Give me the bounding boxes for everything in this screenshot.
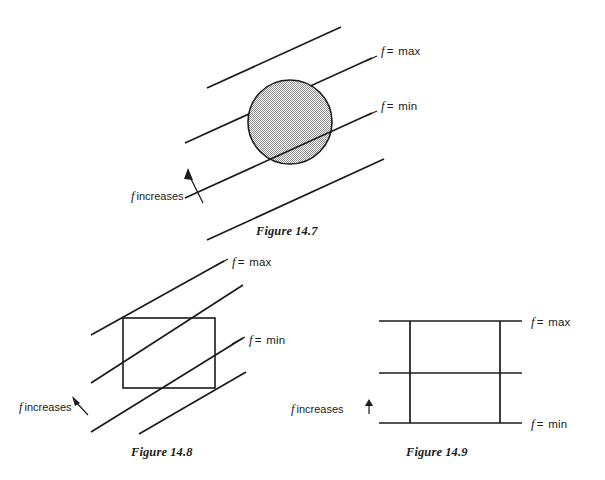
contour-line-4 bbox=[139, 372, 246, 434]
equals-sign: = bbox=[536, 316, 545, 328]
contour-line-1-fmax bbox=[91, 261, 224, 335]
min-text: min bbox=[398, 100, 417, 112]
equals-sign: = bbox=[386, 45, 395, 57]
figure-14-8-fmax-label: f= max bbox=[232, 254, 271, 270]
contour-line-2 bbox=[91, 285, 243, 383]
f-increases-arrow-head bbox=[184, 168, 193, 180]
figure-14-9-fmax-label: f= max bbox=[531, 314, 570, 330]
max-text: max bbox=[398, 45, 420, 57]
increases-text: increases bbox=[296, 403, 343, 415]
contour-line-1 bbox=[207, 27, 341, 88]
figure-14-7-graphic bbox=[184, 27, 384, 240]
figure-14-9-graphic bbox=[365, 321, 522, 423]
equals-sign: = bbox=[536, 418, 545, 430]
feasible-region-disk bbox=[248, 80, 332, 164]
equals-sign: = bbox=[386, 100, 395, 112]
figure-14-8-caption: Figure 14.8 bbox=[131, 445, 193, 460]
fmax-leader bbox=[366, 56, 377, 61]
fmax-leader bbox=[215, 259, 228, 266]
figure-14-7-fmax-label: f= max bbox=[381, 43, 420, 59]
equals-sign: = bbox=[237, 256, 246, 268]
fmin-leader bbox=[366, 111, 377, 116]
figure-page: f= max f= min fincreases Figure 14.7 f= … bbox=[0, 0, 605, 480]
min-text: min bbox=[548, 418, 567, 430]
figure-14-7-caption: Figure 14.7 bbox=[256, 224, 318, 239]
figure-14-7-fmin-label: f= min bbox=[381, 98, 417, 114]
max-text: max bbox=[249, 256, 271, 268]
f-increases-arrow-head bbox=[365, 399, 373, 406]
figure-14-7-f-increases-label: fincreases bbox=[131, 189, 184, 204]
figure-14-9-f-increases-label: fincreases bbox=[291, 402, 344, 417]
min-text: min bbox=[266, 334, 285, 346]
figure-14-8-fmin-label: f= min bbox=[249, 332, 285, 348]
increases-text: increases bbox=[24, 401, 71, 413]
increases-text: increases bbox=[136, 190, 183, 202]
figure-14-8-f-increases-label: fincreases bbox=[19, 400, 72, 415]
fmin-leader bbox=[232, 337, 245, 344]
figure-14-9-caption: Figure 14.9 bbox=[406, 445, 468, 460]
equals-sign: = bbox=[254, 334, 263, 346]
max-text: max bbox=[548, 316, 570, 328]
figure-14-8-graphic bbox=[72, 259, 246, 434]
figure-14-9-fmin-label: f= min bbox=[531, 416, 567, 432]
